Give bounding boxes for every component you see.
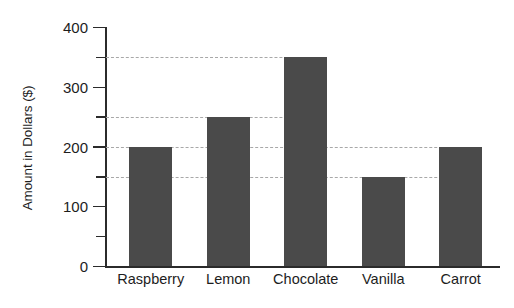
y-tick-label-300: 300 — [40, 80, 88, 95]
y-tick-major-400 — [93, 27, 106, 29]
y-tick-label-400: 400 — [40, 20, 88, 35]
x-tick-label-carrot: Carrot — [411, 272, 511, 288]
bar-raspberry — [129, 147, 172, 266]
bar-chart: Amount in Dollars ($) 0100200300400 Rasp… — [0, 0, 514, 308]
y-tick-major-200 — [93, 146, 106, 148]
y-axis-title-container: Amount in Dollars ($) — [14, 28, 40, 268]
x-axis-line — [105, 266, 500, 268]
y-tick-minor-150 — [96, 176, 106, 178]
y-axis-title: Amount in Dollars ($) — [14, 28, 40, 268]
y-tick-major-300 — [93, 87, 106, 89]
bar-carrot — [439, 147, 482, 266]
bar-vanilla — [362, 177, 405, 267]
y-tick-minor-350 — [96, 57, 106, 59]
y-tick-major-100 — [93, 206, 106, 208]
y-tick-label-0: 0 — [40, 259, 88, 274]
bar-lemon — [207, 117, 250, 266]
bar-chocolate — [284, 57, 327, 266]
y-tick-label-100: 100 — [40, 199, 88, 214]
y-tick-minor-250 — [96, 116, 106, 118]
y-tick-major-0 — [93, 266, 106, 268]
y-tick-label-200: 200 — [40, 140, 88, 155]
y-tick-minor-50 — [96, 236, 106, 238]
y-axis-tick-labels: 0100200300400 — [36, 0, 88, 308]
